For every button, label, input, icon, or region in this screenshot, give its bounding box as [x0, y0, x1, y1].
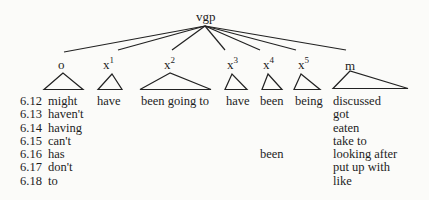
triangle-x4 [262, 74, 282, 90]
node-superscript: 4 [270, 55, 275, 65]
terminal-word [260, 135, 284, 148]
root-label: vgp [196, 9, 216, 24]
node-x2: x2 [164, 58, 175, 71]
node-x5: x5 [298, 58, 309, 71]
terminals-x5: being [295, 95, 323, 108]
terminal-word: discussed [333, 95, 397, 108]
node-label: m [345, 58, 355, 73]
terminal-word: might [48, 95, 84, 108]
node-label: x [298, 57, 305, 72]
branch-o [64, 26, 205, 52]
terminal-word: eaten [333, 122, 397, 135]
example-number: 6.14 [20, 122, 42, 135]
triangle-x1 [98, 74, 122, 90]
terminal-word: take to [333, 135, 397, 148]
node-o: o [58, 58, 65, 71]
node-x4: x4 [263, 58, 274, 71]
terminal-word: been [260, 95, 284, 108]
node-m: m [345, 59, 355, 72]
terminal-word: can't [48, 135, 84, 148]
example-number: 6.13 [20, 108, 42, 121]
triangle-x5 [294, 74, 320, 90]
terminal-word: looking after [333, 148, 397, 161]
example-number: 6.12 [20, 95, 42, 108]
terminal-word: like [333, 175, 397, 188]
terminals-o: might haven't having can't has don't to [48, 95, 84, 188]
terminal-word: have [97, 95, 121, 108]
example-number: 6.17 [20, 161, 42, 174]
triangle-x3 [225, 74, 247, 90]
terminal-word: don't [48, 161, 84, 174]
terminal-word [260, 122, 284, 135]
example-numbers-column: 6.12 6.13 6.14 6.15 6.16 6.17 6.18 [20, 95, 42, 188]
triangle-x2 [140, 73, 211, 90]
branch-m [205, 26, 346, 50]
terminal-word: got [333, 108, 397, 121]
terminal-word: being [295, 95, 323, 108]
example-number: 6.18 [20, 175, 42, 188]
terminals-x4: been been [260, 95, 284, 161]
node-superscript: 3 [234, 55, 239, 65]
node-label: x [103, 57, 110, 72]
terminals-x2: been going to [141, 95, 209, 108]
node-label: x [164, 57, 171, 72]
node-superscript: 5 [305, 55, 310, 65]
branch-x3 [205, 26, 225, 50]
node-superscript: 1 [110, 55, 115, 65]
terminals-m: discussed got eaten take to looking afte… [333, 95, 397, 188]
terminal-word: been [260, 148, 284, 161]
terminal-word: haven't [48, 108, 84, 121]
terminal-word [260, 108, 284, 121]
terminal-word: to [48, 175, 84, 188]
triangle-m [333, 71, 408, 89]
terminal-word: been going to [141, 95, 209, 108]
terminal-word: having [48, 122, 84, 135]
terminals-x1: have [97, 95, 121, 108]
node-superscript: 2 [171, 55, 176, 65]
terminal-word: put up with [333, 161, 397, 174]
node-label: x [263, 57, 270, 72]
branch-x1 [118, 26, 205, 50]
example-number: 6.16 [20, 148, 42, 161]
node-x1: x1 [103, 58, 114, 71]
terminal-word: has [48, 148, 84, 161]
example-number: 6.15 [20, 135, 42, 148]
node-label: o [58, 57, 65, 72]
node-x3: x3 [227, 58, 238, 71]
terminal-word: have [226, 95, 250, 108]
root-node-vgp: vgp [196, 10, 216, 23]
triangle-o [44, 73, 83, 90]
node-label: x [227, 57, 234, 72]
terminals-x3: have [226, 95, 250, 108]
